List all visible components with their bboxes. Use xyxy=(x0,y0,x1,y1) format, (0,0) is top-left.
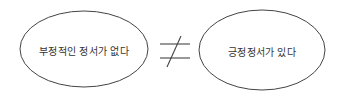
left-node-label: 부정적인 정서가 없다 xyxy=(39,43,129,58)
right-node-label: 긍정정서가 있다 xyxy=(228,44,296,59)
not-equal-icon xyxy=(160,36,190,67)
